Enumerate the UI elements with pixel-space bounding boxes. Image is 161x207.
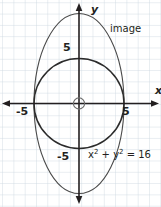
- x-tick-label-5: 5: [122, 106, 130, 117]
- circle-equation-label: x2 + y2 = 16: [88, 150, 151, 160]
- y-axis-label: y: [91, 4, 98, 15]
- graph-figure: y x 5 -5 5 -5 image x2 + y2 = 16: [0, 0, 161, 207]
- equation-equals-value: = 16: [124, 149, 151, 160]
- x-axis-label: x: [155, 85, 161, 96]
- equation-plus-y: + y: [98, 149, 119, 160]
- y-tick-label-5: 5: [63, 42, 71, 53]
- y-tick-label-negative-5: -5: [57, 151, 69, 162]
- x-tick-label-negative-5: -5: [16, 106, 28, 117]
- ellipse-image-label: image: [110, 24, 141, 34]
